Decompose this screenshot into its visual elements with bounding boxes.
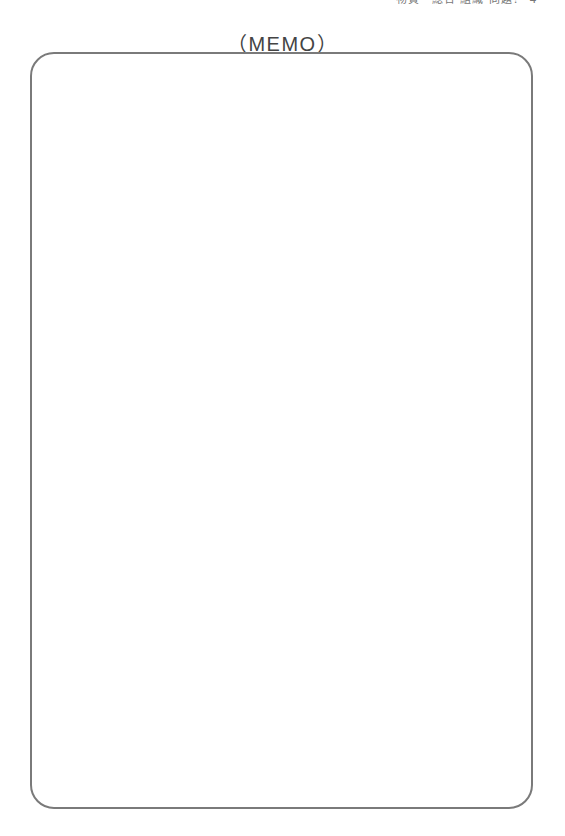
page-header: 物質・総合 組織 問題？ 4 xyxy=(396,0,561,7)
memo-box xyxy=(30,52,533,809)
